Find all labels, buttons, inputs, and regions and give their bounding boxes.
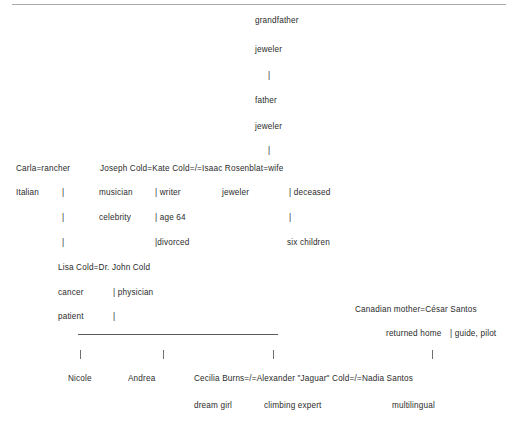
kate-trait-divorced: |divorced xyxy=(155,238,190,248)
carla-trait: Italian xyxy=(16,188,39,198)
wife-connector-tick: | xyxy=(289,213,291,223)
child-name-andrea: Andrea xyxy=(128,374,155,384)
carla-connector-tick-3: | xyxy=(62,238,64,248)
kate-trait-age: | age 64 xyxy=(155,213,186,223)
lisa-john-union-label: Lisa Cold=Dr. John Cold xyxy=(58,263,150,273)
santos-mother-trait: returned home xyxy=(386,329,441,339)
santos-union-label: Canadian mother=César Santos xyxy=(355,305,477,315)
joseph-kate-isaac-union-label: Joseph Cold=Kate Cold=/=Isaac Rosenblat=… xyxy=(100,164,283,174)
carla-connector-tick: | xyxy=(62,188,64,198)
sibling-connector-bar xyxy=(78,334,278,335)
grandfather-label: grandfather xyxy=(255,16,299,26)
isaac-trait-jeweler: jeweler xyxy=(222,188,249,198)
child-name-nicole: Nicole xyxy=(68,374,92,384)
father-label: father xyxy=(255,96,277,106)
lisa-trait-patient: patient xyxy=(58,312,84,322)
grandfather-occupation: jeweler xyxy=(255,45,282,55)
lisa-trait-cancer: cancer xyxy=(58,288,84,298)
connector-father-children: | xyxy=(268,146,270,156)
father-occupation: jeweler xyxy=(255,122,282,132)
alexander-trait: climbing expert xyxy=(264,401,322,411)
connector-grandfather-father: | xyxy=(268,71,270,81)
rosenblat-children-count: six children xyxy=(287,238,330,248)
family-tree-canvas: grandfather jeweler | father jeweler | C… xyxy=(0,0,512,424)
child-tick-alexander xyxy=(273,350,274,359)
john-connector-tick: | xyxy=(113,312,115,322)
joseph-trait-musician: musician xyxy=(99,188,133,198)
carla-union-label: Carla=rancher xyxy=(16,164,70,174)
alexander-marriage-line: Cecilia Burns=/=Alexander "Jaguar" Cold=… xyxy=(194,374,413,384)
nadia-trait: multilingual xyxy=(392,401,435,411)
joseph-trait-celebrity: celebrity xyxy=(99,213,131,223)
child-tick-andrea xyxy=(163,350,164,359)
page-top-rule xyxy=(12,4,506,5)
john-trait-physician: | physician xyxy=(113,288,153,298)
child-tick-nicole xyxy=(80,350,81,359)
child-tick-nadia xyxy=(432,350,433,359)
cecilia-trait: dream girl xyxy=(194,401,232,411)
carla-connector-tick-2: | xyxy=(62,213,64,223)
kate-trait-writer: | writer xyxy=(155,188,181,198)
wife-trait-deceased: | deceased xyxy=(289,188,331,198)
santos-father-trait: | guide, pilot xyxy=(450,329,496,339)
